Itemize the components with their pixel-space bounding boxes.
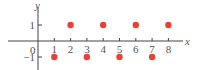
data-point [165, 22, 171, 28]
data-point [100, 22, 106, 28]
y-axis-label: y [34, 0, 40, 11]
x-axis-label: x [184, 35, 190, 47]
data-point [116, 54, 122, 60]
data-point [149, 54, 155, 60]
x-tick-label: 6 [133, 43, 139, 55]
x-tick-label: 7 [149, 43, 155, 55]
data-point [84, 54, 90, 60]
x-tick-label: 5 [117, 43, 123, 55]
y-tick-label: 1 [30, 19, 36, 31]
x-tick-label: 4 [100, 43, 106, 55]
data-point [51, 54, 57, 60]
data-point [67, 22, 73, 28]
x-tick-label: 2 [68, 43, 74, 55]
x-tick-label: 1 [52, 43, 58, 55]
data-point [133, 22, 139, 28]
scatter-plot: x y 0 12345678 1−1 [0, 0, 209, 70]
y-tick-label: −1 [23, 51, 35, 63]
x-tick-label: 3 [84, 43, 90, 55]
x-tick-label: 8 [166, 43, 172, 55]
